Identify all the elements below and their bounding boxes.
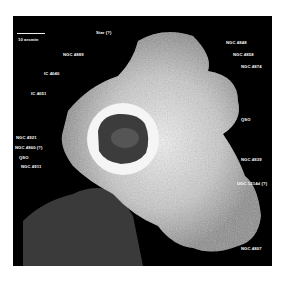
label-qso-right: QSO [241,117,251,122]
scale-bar-label: 10 arcmin [18,37,38,42]
label-ngc4921: NGC 4921 [16,135,37,140]
label-ngc4839: NGC 4839 [241,157,262,162]
label-qso-left: QSO [19,155,29,160]
label-ngc4848: NGC 4848 [226,40,247,45]
label-ugc: UGC 1214d (?) [237,181,267,186]
label-ngc4874: NGC 4874 [241,64,262,69]
label-ngc4860: NGC 4860 (?) [15,145,43,150]
scale-bar [17,33,45,34]
label-star: Star (?) [96,30,111,35]
label-ngc4911: NGC 4911 [21,164,41,169]
label-ic4051: IC 4051 [31,91,46,96]
label-ngc4858: NGC 4858 [233,52,254,57]
label-ngc4807: NGC 4807 [241,246,262,251]
label-ic4040: IC 4040 [44,71,59,76]
label-ngc4889: NGC 4889 [63,52,84,57]
xray-image-panel: 10 arcmin Star (?) NGC 4889 IC 4040 IC 4… [13,16,272,266]
